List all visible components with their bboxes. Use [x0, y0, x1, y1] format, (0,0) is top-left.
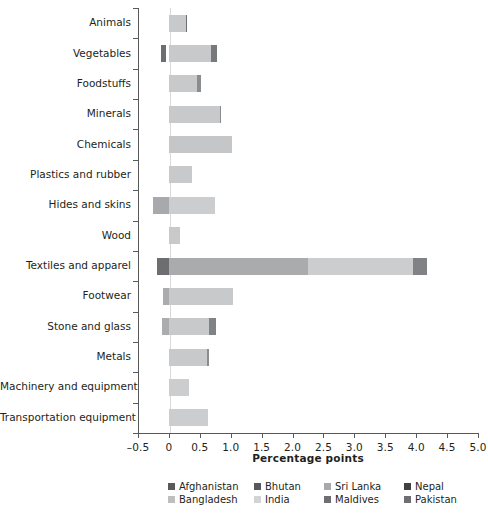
bar-segment [169, 75, 197, 92]
y-axis-tick [133, 342, 138, 343]
bar-segment [162, 318, 169, 335]
bar-group [138, 106, 478, 123]
bar-group [138, 227, 478, 244]
bar-segment [169, 15, 186, 32]
bar-segment [169, 227, 180, 244]
y-axis-category-label: Machinery and equipment [0, 380, 131, 392]
bar-segment [308, 258, 413, 275]
y-axis-tick [133, 221, 138, 222]
y-axis-tick [133, 129, 138, 130]
bar-segment [169, 197, 215, 214]
x-axis-title: Percentage points [138, 452, 478, 464]
legend-item[interactable]: Nepal [404, 481, 468, 492]
legend-item[interactable]: Bangladesh [168, 494, 254, 505]
bar-segment [169, 409, 208, 426]
legend-swatch-icon [324, 496, 331, 503]
legend-swatch-icon [324, 483, 331, 490]
y-axis-tick [133, 38, 138, 39]
bar-segment [169, 258, 308, 275]
bar-segment [169, 379, 189, 396]
y-axis-category-label: Wood [0, 229, 131, 241]
legend-label: Bangladesh [179, 494, 238, 505]
legend-swatch-icon [254, 496, 261, 503]
chart-container: AnimalsVegetablesFoodstuffsMineralsChemi… [0, 0, 488, 522]
x-axis-tick [262, 433, 263, 438]
y-axis-category-label: Minerals [0, 107, 131, 119]
bar-segment [207, 349, 209, 366]
legend-swatch-icon [404, 483, 411, 490]
y-axis-category-label: Vegetables [0, 47, 131, 59]
bar-group [138, 349, 478, 366]
legend-swatch-icon [168, 496, 175, 503]
chart-legend: AfghanistanBhutanSri LankaNepal Banglade… [168, 480, 468, 506]
bar-group [138, 258, 478, 275]
zero-reference-line [170, 8, 171, 433]
legend-label: Maldives [335, 494, 379, 505]
y-axis-tick [133, 160, 138, 161]
legend-label: India [265, 494, 290, 505]
plot-area [138, 8, 478, 433]
x-axis-tick [323, 433, 324, 438]
legend-label: Afghanistan [179, 481, 239, 492]
y-axis-category-label: Stone and glass [0, 320, 131, 332]
y-axis-category-label: Animals [0, 16, 131, 28]
y-axis-tick [133, 312, 138, 313]
bar-segment [413, 258, 427, 275]
legend-row-1: AfghanistanBhutanSri LankaNepal [168, 480, 468, 493]
bar-group [138, 75, 478, 92]
legend-item[interactable]: Maldives [324, 494, 404, 505]
y-axis-tick [133, 403, 138, 404]
bar-group [138, 197, 478, 214]
legend-item[interactable]: Pakistan [404, 494, 468, 505]
bar-segment [220, 106, 222, 123]
bar-segment [169, 136, 232, 153]
y-axis-category-label: Chemicals [0, 138, 131, 150]
x-axis-tick [169, 433, 170, 438]
legend-swatch-icon [254, 483, 261, 490]
y-axis-category-label: Textiles and apparel [0, 259, 131, 271]
y-axis-category-label: Hides and skins [0, 198, 131, 210]
x-axis-tick [293, 433, 294, 438]
bar-group [138, 379, 478, 396]
bar-group [138, 166, 478, 183]
bar-segment [209, 318, 216, 335]
y-axis-tick [133, 281, 138, 282]
bar-group [138, 409, 478, 426]
legend-item[interactable]: Sri Lanka [324, 481, 404, 492]
y-axis-category-label: Plastics and rubber [0, 168, 131, 180]
x-axis-tick [416, 433, 417, 438]
y-axis-tick [133, 99, 138, 100]
y-axis-category-label: Metals [0, 350, 131, 362]
x-axis-tick [385, 433, 386, 438]
x-axis-tick [447, 433, 448, 438]
y-axis-tick [133, 190, 138, 191]
bar-segment [169, 288, 233, 305]
y-axis-spine [138, 8, 139, 433]
bar-segment [197, 75, 201, 92]
bar-segment [169, 45, 211, 62]
x-axis-tick [138, 433, 139, 438]
legend-label: Bhutan [265, 481, 301, 492]
bar-segment [211, 45, 217, 62]
y-axis-tick [133, 251, 138, 252]
bar-segment [169, 166, 192, 183]
bar-segment [169, 318, 209, 335]
x-axis-tick [478, 433, 479, 438]
bar-segment [169, 106, 220, 123]
x-axis-spine [138, 433, 478, 434]
legend-label: Pakistan [415, 494, 457, 505]
legend-item[interactable]: India [254, 494, 324, 505]
bar-group [138, 136, 478, 153]
x-axis-tick [231, 433, 232, 438]
legend-label: Sri Lanka [335, 481, 381, 492]
bar-segment [157, 258, 169, 275]
bar-segment [153, 197, 168, 214]
legend-item[interactable]: Bhutan [254, 481, 324, 492]
y-axis-category-label: Transportation equipment [0, 411, 131, 423]
y-axis-category-label: Foodstuffs [0, 77, 131, 89]
y-axis-tick [133, 69, 138, 70]
bar-group [138, 15, 478, 32]
y-axis-tick [133, 8, 138, 9]
bar-segment [169, 349, 207, 366]
legend-item[interactable]: Afghanistan [168, 481, 254, 492]
